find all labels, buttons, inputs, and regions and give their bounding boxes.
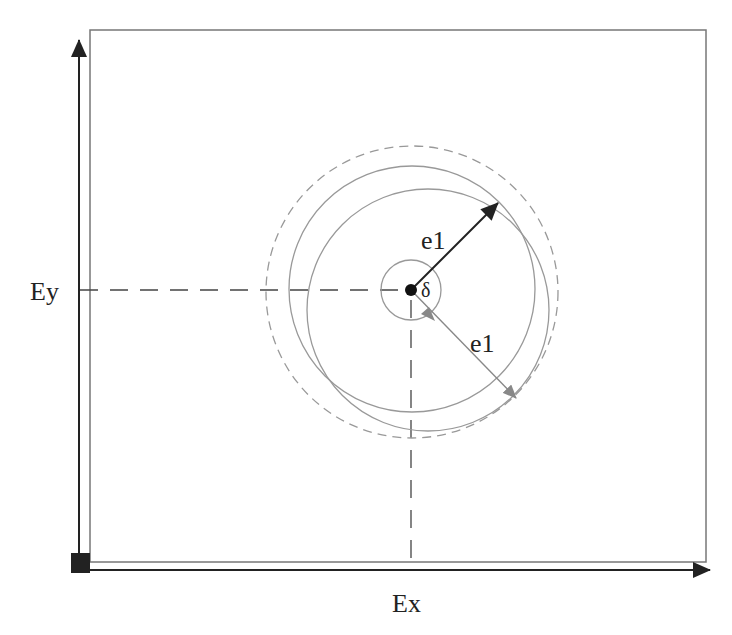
tolerance-diagram: δ e1 e1 Ey Ex — [0, 0, 732, 635]
center-point — [405, 284, 417, 296]
delta-arrowhead — [421, 307, 435, 321]
e1-label-lower: e1 — [470, 329, 495, 358]
origin-square — [71, 553, 90, 573]
e1-label-upper: e1 — [421, 226, 446, 255]
y-axis-label: Ey — [30, 277, 59, 306]
x-axis-label: Ex — [392, 589, 421, 618]
e1-radius-arrow-grey — [411, 290, 516, 398]
plot-frame — [90, 30, 706, 562]
delta-label: δ — [421, 279, 430, 301]
